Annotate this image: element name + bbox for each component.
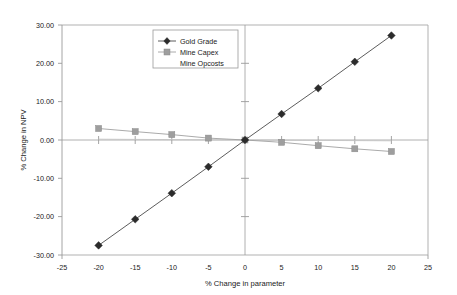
x-tick-label-neg20: -20 xyxy=(93,263,103,272)
gold-grade-point xyxy=(95,242,103,250)
legend-label-mine-capex: Mine Capex xyxy=(180,48,219,57)
gold-grade-point xyxy=(314,85,322,93)
legend-entry-mine-opcosts[interactable]: Mine Opcosts xyxy=(180,59,224,68)
x-tick-label-15: 15 xyxy=(351,263,359,272)
gold-grade-point xyxy=(168,189,176,197)
y-tick-label-30: 30.00 xyxy=(36,21,54,30)
legend-label-gold-grade: Gold Grade xyxy=(180,37,217,46)
x-axis-title: % Change in parameter xyxy=(205,279,286,288)
x-tick-label-neg10: -10 xyxy=(167,263,177,272)
mine-capex-point xyxy=(315,143,321,149)
gold-grade-point xyxy=(388,32,396,40)
legend-label-mine-opcosts: Mine Opcosts xyxy=(180,59,224,68)
x-tick-label-20: 20 xyxy=(387,263,395,272)
y-tick-label-neg30: -30.00 xyxy=(34,251,54,260)
y-tick-label-neg10: -10.00 xyxy=(34,174,54,183)
mine-capex-point xyxy=(132,129,138,135)
chart-legend: Gold Grade Mine Capex Mine Opcosts xyxy=(153,30,238,68)
y-tick-label-0: 0.00 xyxy=(40,136,54,145)
mine-capex-point xyxy=(388,149,394,155)
x-tick-label-neg15: -15 xyxy=(130,263,140,272)
gold-grade-point xyxy=(278,110,286,118)
x-tick-label-10: 10 xyxy=(314,263,322,272)
y-tick-label-neg20: -20.00 xyxy=(34,212,54,221)
chart-canvas: 30.00 20.00 10.00 0.00 -10.00 -20.00 -30… xyxy=(0,0,457,295)
y-axis-ticks: 30.00 20.00 10.00 0.00 -10.00 -20.00 -30… xyxy=(34,21,62,260)
gold-grade-point xyxy=(205,163,213,171)
mine-capex-point xyxy=(96,126,102,132)
legend-entry-gold-grade[interactable]: Gold Grade xyxy=(158,37,217,46)
mine-capex-point xyxy=(169,132,175,138)
x-tick-label-25: 25 xyxy=(424,263,432,272)
x-tick-label-0: 0 xyxy=(243,263,247,272)
x-tick-label-neg25: -25 xyxy=(57,263,67,272)
x-tick-label-neg5: -5 xyxy=(205,263,211,272)
sensitivity-chart-figure: 30.00 20.00 10.00 0.00 -10.00 -20.00 -30… xyxy=(0,0,457,295)
y-tick-label-20: 20.00 xyxy=(36,59,54,68)
gold-grade-point xyxy=(131,216,139,224)
mine-capex-point xyxy=(279,139,285,145)
x-axis-ticks: -25 -20 -15 -10 -5 0 5 10 15 20 25 xyxy=(57,136,432,272)
mine-capex-point xyxy=(205,135,211,141)
legend-marker-mine-capex xyxy=(164,49,170,55)
y-axis-title: % Change in NPV xyxy=(19,108,28,170)
x-tick-label-5: 5 xyxy=(280,263,284,272)
gold-grade-point xyxy=(351,58,359,66)
y-tick-label-10: 10.00 xyxy=(36,97,54,106)
mine-capex-point xyxy=(352,146,358,152)
legend-entry-mine-capex[interactable]: Mine Capex xyxy=(158,48,219,57)
